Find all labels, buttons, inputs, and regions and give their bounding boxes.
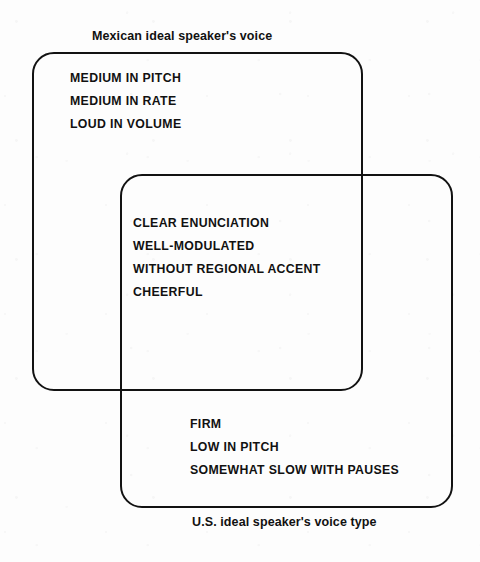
venn-diagram: Mexican ideal speaker's voice MEDIUM IN …	[0, 0, 480, 562]
list-item: CHEERFUL	[133, 281, 321, 304]
set-label-mexican: Mexican ideal speaker's voice	[92, 29, 272, 43]
list-item: WELL-MODULATED	[133, 235, 321, 258]
trait-list-us-only: FIRM LOW IN PITCH SOMEWHAT SLOW WITH PAU…	[190, 413, 399, 482]
trait-list-intersection: CLEAR ENUNCIATION WELL-MODULATED WITHOUT…	[133, 212, 321, 304]
list-item: LOUD IN VOLUME	[70, 113, 181, 136]
set-label-us: U.S. ideal speaker's voice type	[192, 515, 377, 529]
list-item: LOW IN PITCH	[190, 436, 399, 459]
trait-list-mexican-only: MEDIUM IN PITCH MEDIUM IN RATE LOUD IN V…	[70, 67, 181, 136]
list-item: FIRM	[190, 413, 399, 436]
list-item: MEDIUM IN RATE	[70, 90, 181, 113]
list-item: CLEAR ENUNCIATION	[133, 212, 321, 235]
list-item: WITHOUT REGIONAL ACCENT	[133, 258, 321, 281]
list-item: MEDIUM IN PITCH	[70, 67, 181, 90]
list-item: SOMEWHAT SLOW WITH PAUSES	[190, 459, 399, 482]
